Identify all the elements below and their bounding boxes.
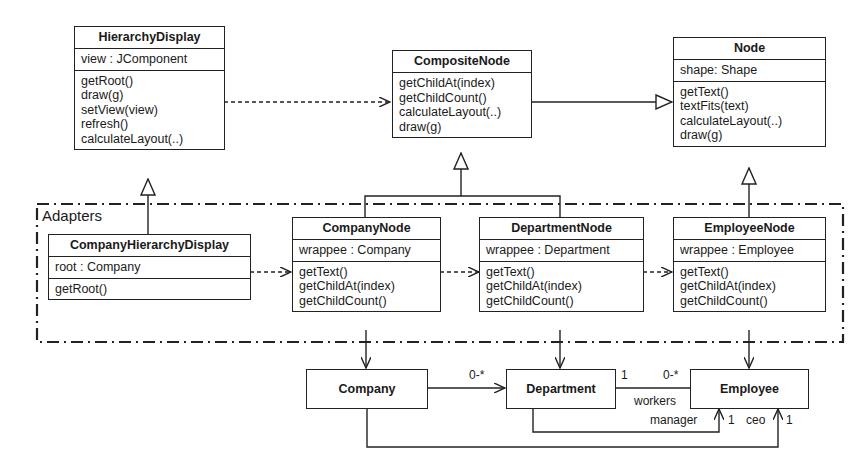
class-department-node[interactable]: DepartmentNode wrappee : Department getT… [479,217,644,312]
attribute: root : Company [55,260,244,275]
method: draw(g) [81,88,218,103]
class-company-hierarchy-display[interactable]: CompanyHierarchyDisplay root : Company g… [48,234,251,300]
method: setView(view) [81,103,218,118]
class-company-node[interactable]: CompanyNode wrappee : Company getText() … [292,217,441,312]
multiplicity-company-department: 0-* [469,368,484,382]
method: draw(g) [680,128,819,143]
method: getRoot() [55,282,244,297]
attributes-section: wrappee : Employee [674,240,825,261]
method: getChildAt(index) [680,279,819,294]
role-manager: manager [650,413,697,427]
class-node[interactable]: Node shape: Shape getText() textFits(tex… [673,37,826,147]
class-name: HierarchyDisplay [75,27,224,49]
method: getChildAt(index) [399,76,525,91]
role-workers: workers [634,394,676,408]
method: getChildCount() [680,294,819,309]
class-company[interactable]: Company [306,369,428,409]
method: calculateLayout(..) [680,114,819,129]
class-employee[interactable]: Employee [690,369,809,409]
class-name: CompanyNode [293,218,440,240]
method: getChildCount() [486,294,637,309]
methods-section: getRoot() [49,278,250,300]
method: textFits(text) [680,99,819,114]
attribute: wrappee : Company [299,243,434,258]
method: getText() [299,265,434,280]
method: refresh() [81,117,218,132]
class-employee-node[interactable]: EmployeeNode wrappee : Employee getText(… [673,217,826,312]
method: getChildAt(index) [299,279,434,294]
class-composite-node[interactable]: CompositeNode getChildAt(index) getChild… [392,50,532,138]
class-department[interactable]: Department [506,369,616,409]
method: getText() [680,265,819,280]
methods-section: getText() getChildAt(index) getChildCoun… [674,261,825,312]
class-name: EmployeeNode [674,218,825,240]
attribute: wrappee : Department [486,243,637,258]
method: getRoot() [81,74,218,89]
method: draw(g) [399,120,525,135]
attribute: wrappee : Employee [680,243,819,258]
methods-section: getChildAt(index) getChildCount() calcul… [393,73,531,137]
attribute: shape: Shape [680,63,819,78]
attributes-section: view : JComponent [75,49,224,70]
methods-section: getText() getChildAt(index) getChildCoun… [480,261,643,312]
methods-section: getRoot() draw(g) setView(view) refresh(… [75,70,224,150]
attribute: view : JComponent [81,52,218,67]
role-ceo: ceo [746,413,765,427]
package-label-adapters: Adapters [42,207,102,224]
class-name: CompanyHierarchyDisplay [49,235,250,257]
method: calculateLayout(..) [399,105,525,120]
multiplicity-department-end: 1 [621,368,628,382]
multiplicity-ceo: 1 [786,413,793,427]
class-name: DepartmentNode [480,218,643,240]
class-name: CompositeNode [393,51,531,73]
method: calculateLayout(..) [81,132,218,147]
method: getText() [680,85,819,100]
methods-section: getText() textFits(text) calculateLayout… [674,81,825,146]
multiplicity-employee-end: 0-* [663,368,678,382]
class-name: Node [674,38,825,60]
attributes-section: root : Company [49,257,250,278]
method: getChildCount() [399,91,525,106]
method: getChildCount() [299,294,434,309]
class-hierarchy-display[interactable]: HierarchyDisplay view : JComponent getRo… [74,26,225,150]
attributes-section: wrappee : Company [293,240,440,261]
methods-section: getText() getChildAt(index) getChildCoun… [293,261,440,312]
method: getText() [486,265,637,280]
attributes-section: shape: Shape [674,60,825,81]
method: getChildAt(index) [486,279,637,294]
multiplicity-manager: 1 [728,413,735,427]
attributes-section: wrappee : Department [480,240,643,261]
